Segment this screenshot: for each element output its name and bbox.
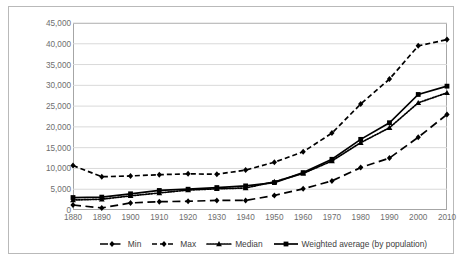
- legend-label: Weighted average (by population): [302, 239, 428, 249]
- data-point-marker: [445, 84, 450, 89]
- data-point-marker: [214, 171, 219, 177]
- data-point-marker: [99, 205, 104, 211]
- gridlines: [73, 23, 447, 189]
- x-axis-tick-label: 1990: [380, 213, 398, 223]
- data-point-marker: [283, 242, 288, 247]
- data-point-marker: [416, 92, 421, 97]
- y-axis-tick-label: 10,000: [31, 164, 71, 173]
- chart-legend: MinMaxMedianWeighted average (by populat…: [73, 236, 453, 252]
- data-point-marker: [358, 165, 363, 171]
- y-axis-tick-label: 35,000: [31, 60, 71, 69]
- x-axis-tick-label: 2010: [438, 213, 456, 223]
- y-axis-tick-label: 5,000: [31, 185, 71, 194]
- data-point-marker: [243, 183, 248, 188]
- data-point-marker: [71, 195, 76, 200]
- data-point-marker: [214, 197, 219, 203]
- data-point-marker: [330, 157, 335, 162]
- x-axis-tick-label: 1940: [237, 213, 255, 223]
- series-line: [73, 86, 447, 197]
- legend-swatch-long-dash: [99, 239, 125, 249]
- legend-item-weighted-average-by-population[interactable]: Weighted average (by population): [273, 239, 428, 249]
- data-point-marker: [186, 187, 191, 192]
- series-lines: [70, 37, 450, 211]
- data-point-marker: [185, 198, 190, 204]
- data-point-marker: [185, 171, 190, 177]
- data-point-marker: [128, 173, 133, 179]
- y-axis-tick-label: 45,000: [31, 19, 71, 28]
- data-point-marker: [301, 186, 306, 192]
- series-max: [70, 37, 449, 180]
- data-point-marker: [272, 180, 277, 185]
- y-axis-tick-label: 25,000: [31, 102, 71, 111]
- legend-swatch-dash: [151, 239, 177, 249]
- data-point-marker: [301, 170, 306, 175]
- x-axis-tick-label: 1900: [121, 213, 139, 223]
- x-axis-tick-label: 1980: [352, 213, 370, 223]
- data-point-marker: [109, 241, 114, 247]
- legend-item-median[interactable]: Median: [206, 239, 262, 249]
- x-axis-tick-label: 1890: [93, 213, 111, 223]
- data-point-marker: [329, 178, 334, 184]
- x-axis-tick-label: 2000: [409, 213, 427, 223]
- legend-label: Max: [180, 239, 196, 249]
- y-axis-tick-label: 15,000: [31, 143, 71, 152]
- x-axis-tick-label: 1960: [294, 213, 312, 223]
- legend-item-max[interactable]: Max: [151, 239, 196, 249]
- data-point-marker: [243, 197, 248, 203]
- x-axis-tick-label: 1970: [323, 213, 341, 223]
- x-axis-tick-label: 1880: [64, 213, 82, 223]
- data-point-marker: [70, 202, 75, 208]
- data-point-marker: [99, 174, 104, 180]
- legend-label: Median: [235, 239, 262, 249]
- x-axis-tick-label: 1920: [179, 213, 197, 223]
- data-point-marker: [157, 172, 162, 178]
- data-point-marker: [301, 149, 306, 155]
- plot-area: [73, 23, 447, 210]
- x-axis-tick-label: 1950: [265, 213, 283, 223]
- x-axis-tick-label: 1910: [150, 213, 168, 223]
- legend-label: Min: [128, 239, 142, 249]
- legend-item-min[interactable]: Min: [99, 239, 142, 249]
- y-axis-labels: 05,00010,00015,00020,00025,00030,00035,0…: [31, 23, 71, 210]
- data-point-marker: [358, 137, 363, 142]
- data-point-marker: [128, 191, 133, 196]
- data-point-marker: [272, 192, 277, 198]
- data-point-marker: [99, 195, 104, 200]
- series-median: [70, 90, 450, 202]
- x-axis-tick-label: 1930: [208, 213, 226, 223]
- series-weighted-average-by-population: [71, 84, 450, 200]
- data-point-marker: [214, 185, 219, 190]
- data-point-marker: [444, 37, 449, 43]
- y-axis-tick-label: 20,000: [31, 122, 71, 131]
- chart-container: 05,00010,00015,00020,00025,00030,00035,0…: [0, 0, 463, 265]
- data-point-marker: [162, 241, 167, 247]
- data-point-marker: [70, 163, 75, 169]
- chart-frame: 05,00010,00015,00020,00025,00030,00035,0…: [8, 6, 454, 254]
- y-axis-tick-label: 30,000: [31, 81, 71, 90]
- y-axis-tick-label: 40,000: [31, 39, 71, 48]
- x-axis-labels: 1880189019001910192019301940195019601970…: [73, 213, 447, 227]
- legend-swatch-dotted: [206, 239, 232, 249]
- data-point-marker: [157, 199, 162, 205]
- data-point-marker: [387, 120, 392, 125]
- data-point-marker: [157, 188, 162, 193]
- data-point-marker: [444, 90, 450, 95]
- data-point-marker: [128, 200, 133, 206]
- data-point-marker: [272, 159, 277, 165]
- legend-swatch-solid: [273, 239, 299, 249]
